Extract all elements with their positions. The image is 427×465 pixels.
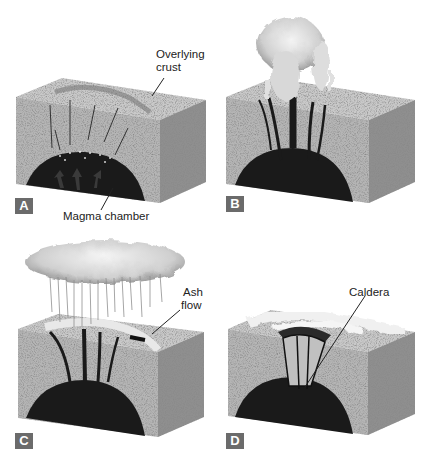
label-overlying-crust-1: Overlying bbox=[156, 48, 205, 61]
block-diagram-d bbox=[213, 232, 427, 465]
label-ash-flow-1: Ash bbox=[183, 286, 203, 299]
panel-letter-d: D bbox=[226, 433, 244, 449]
block-diagram-c bbox=[0, 232, 213, 465]
label-caldera: Caldera bbox=[349, 286, 389, 299]
ash-cloud bbox=[25, 240, 185, 284]
label-ash-flow-2: flow bbox=[181, 299, 201, 312]
panel-letter-a: A bbox=[15, 198, 33, 214]
panel-d: Caldera D bbox=[213, 232, 427, 465]
block-diagram-b bbox=[213, 0, 427, 232]
eruption-column bbox=[258, 17, 333, 100]
panel-a: Overlying crust Magma chamber A bbox=[0, 0, 213, 232]
panel-c: Ash flow C bbox=[0, 232, 213, 465]
panel-letter-c: C bbox=[15, 433, 33, 449]
label-overlying-crust-2: crust bbox=[156, 61, 181, 74]
panel-b: B bbox=[213, 0, 427, 232]
label-magma-chamber: Magma chamber bbox=[63, 210, 149, 223]
panel-letter-b: B bbox=[226, 196, 244, 212]
